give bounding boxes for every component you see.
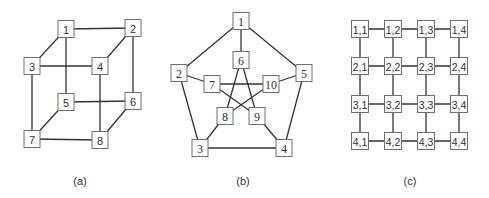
cube-edge-1-to-2	[66, 28, 133, 29]
petersen-node-3: 3	[192, 140, 208, 157]
node-label: 4	[281, 142, 287, 156]
node-label: 1,4	[452, 24, 467, 36]
node-label: 4,4	[452, 136, 467, 148]
mesh-node-4-1: 4,1	[352, 133, 369, 150]
petersen-node-10: 10	[263, 76, 279, 93]
node-label: 4,1	[353, 136, 368, 148]
mesh-node-4-2: 4,2	[385, 133, 402, 150]
petersen-graph: 12345678910 (b)	[171, 13, 312, 188]
node-label: 2,4	[452, 61, 467, 73]
node-label: 1	[63, 24, 69, 36]
petersen-node-4: 4	[276, 140, 292, 157]
mesh-node-4-4: 4,4	[451, 133, 468, 150]
node-label: 2	[130, 23, 136, 35]
cube-edges	[32, 28, 133, 140]
petersen-edge-2-to-3	[179, 73, 200, 148]
cube-node-6: 6	[125, 93, 141, 110]
node-label: 6	[238, 54, 244, 68]
cube-node-3: 3	[24, 58, 40, 75]
petersen-caption: (b)	[236, 175, 249, 187]
petersen-edge-4-to-5	[284, 73, 304, 148]
mesh-node-1-4: 1,4	[451, 21, 468, 38]
cube-node-4: 4	[92, 58, 108, 75]
cube-edge-7-to-8	[32, 139, 100, 140]
petersen-node-8: 8	[217, 108, 233, 125]
node-label: 5	[301, 67, 307, 81]
node-label: 2,3	[419, 61, 434, 73]
node-label: 7	[29, 134, 35, 146]
node-label: 3	[29, 61, 35, 73]
cube-node-7: 7	[24, 131, 40, 148]
cube-node-1: 1	[58, 21, 74, 38]
mesh-node-3-1: 3,1	[352, 96, 369, 113]
mesh-node-1-2: 1,2	[385, 21, 402, 38]
node-label: 1	[238, 15, 244, 29]
node-label: 6	[130, 96, 136, 108]
mesh-edges	[360, 29, 459, 141]
node-label: 3,2	[386, 99, 401, 111]
petersen-node-9: 9	[249, 108, 265, 125]
petersen-edge-5-to-1	[241, 21, 304, 73]
mesh-node-3-4: 3,4	[451, 96, 468, 113]
node-label: 3,4	[452, 99, 467, 111]
node-label: 3,1	[353, 99, 368, 111]
node-label: 2,2	[386, 61, 401, 73]
mesh-nodes: 1,11,21,31,42,12,22,32,43,13,23,33,44,14…	[352, 21, 468, 150]
cube-node-8: 8	[92, 132, 108, 149]
graph-figure: 12345678 (a) 12345678910 (b) 1,11,21,31,…	[0, 0, 489, 198]
mesh-node-2-2: 2,2	[385, 58, 402, 75]
mesh-node-1-3: 1,3	[418, 21, 435, 38]
mesh-node-1-1: 1,1	[352, 21, 369, 38]
node-label: 2	[176, 67, 182, 81]
mesh-node-2-1: 2,1	[352, 58, 369, 75]
mesh-graph: 1,11,21,31,42,12,22,32,43,13,23,33,44,14…	[352, 21, 468, 188]
petersen-node-2: 2	[171, 65, 187, 82]
mesh-node-4-3: 4,3	[418, 133, 435, 150]
node-label: 3,3	[419, 99, 434, 111]
node-label: 1,3	[419, 24, 434, 36]
cube-node-5: 5	[58, 94, 74, 111]
node-label: 4,2	[386, 136, 401, 148]
petersen-node-5: 5	[296, 65, 312, 82]
mesh-caption: (c)	[404, 175, 417, 187]
node-label: 1,1	[353, 24, 368, 36]
petersen-edges	[179, 21, 304, 148]
node-label: 10	[265, 78, 277, 92]
mesh-node-2-3: 2,3	[418, 58, 435, 75]
node-label: 7	[209, 78, 215, 92]
mesh-node-3-3: 3,3	[418, 96, 435, 113]
petersen-node-1: 1	[233, 13, 249, 30]
petersen-node-6: 6	[233, 52, 249, 69]
cube-graph: 12345678 (a)	[24, 20, 141, 188]
node-label: 3	[197, 142, 203, 156]
node-label: 8	[97, 135, 103, 147]
node-label: 1,2	[386, 24, 401, 36]
node-label: 4	[97, 61, 103, 73]
mesh-node-2-4: 2,4	[451, 58, 468, 75]
node-label: 9	[254, 110, 260, 124]
petersen-node-7: 7	[204, 76, 220, 93]
cube-edge-5-to-6	[66, 101, 133, 102]
node-label: 2,1	[353, 61, 368, 73]
cube-caption: (a)	[73, 175, 86, 187]
node-label: 5	[63, 97, 69, 109]
node-label: 4,3	[419, 136, 434, 148]
node-label: 8	[222, 110, 228, 124]
petersen-edge-1-to-2	[179, 21, 241, 73]
cube-node-2: 2	[125, 20, 141, 37]
mesh-node-3-2: 3,2	[385, 96, 402, 113]
